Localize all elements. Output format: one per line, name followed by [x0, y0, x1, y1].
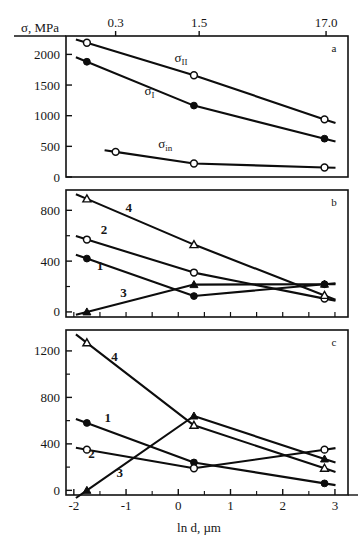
figure-canvas: 0.31.517.0050010001500200004008000400800…	[0, 0, 363, 559]
data-point-b-1	[83, 255, 90, 262]
y-axis-title: σ, MPa	[21, 20, 59, 35]
curve-label-c-2: 2	[88, 446, 95, 461]
data-point-c-3	[190, 412, 198, 419]
x-tick-label: 0	[175, 498, 182, 513]
data-point-b-4	[321, 291, 329, 298]
data-point-b-1	[191, 293, 198, 300]
y-tick-label-a: 0	[54, 170, 61, 185]
top-axis-label: 17.0	[315, 15, 338, 30]
x-tick-label: 3	[332, 498, 339, 513]
x-axis-title: ln d, µm	[177, 520, 221, 535]
curve-label-c-4: 4	[111, 349, 118, 364]
series-label-a-2: σin	[158, 136, 173, 153]
data-point-b-4	[190, 241, 198, 248]
data-point-a-σin	[112, 148, 119, 155]
series-line-a-σII	[76, 39, 336, 123]
y-tick-label-a: 1500	[34, 78, 60, 93]
y-tick-label-b: 400	[41, 254, 61, 269]
data-point-b-2	[191, 269, 198, 276]
data-point-c-2	[191, 465, 198, 472]
top-axis-label: 1.5	[191, 15, 207, 30]
x-tick-label: -1	[121, 498, 132, 513]
y-tick-label-a: 500	[41, 139, 61, 154]
series-line-b-3	[76, 284, 336, 315]
x-tick-label: -2	[68, 498, 79, 513]
data-point-a-σII	[83, 39, 90, 46]
data-point-c-4	[321, 464, 329, 471]
y-tick-label-c: 400	[41, 436, 61, 451]
series-line-a-σin	[105, 150, 336, 168]
curve-label-b-2: 2	[101, 222, 108, 237]
panel-frame-a	[66, 36, 348, 177]
y-tick-label-a: 1000	[34, 108, 60, 123]
data-point-a-σII	[321, 116, 328, 123]
data-point-a-σI	[321, 135, 328, 142]
x-tick-label: 2	[279, 498, 286, 513]
y-tick-label-a: 2000	[34, 47, 60, 62]
top-axis-label: 0.3	[107, 15, 123, 30]
data-point-a-σin	[191, 160, 198, 167]
x-tick-label: 1	[227, 498, 234, 513]
curve-label-b-3: 3	[120, 285, 127, 300]
panel-letter-c: c	[332, 336, 337, 348]
data-point-c-2	[321, 446, 328, 453]
series-label-a-1: σI	[145, 83, 155, 100]
data-point-c-1	[83, 420, 90, 427]
curve-label-c-3: 3	[117, 465, 124, 480]
y-tick-label-b: 0	[54, 304, 61, 319]
y-tick-label-c: 0	[54, 483, 61, 498]
panel-letter-b: b	[331, 196, 337, 208]
data-point-a-σin	[321, 164, 328, 171]
data-point-a-σI	[191, 102, 198, 109]
data-point-c-1	[321, 480, 328, 487]
y-tick-label-c: 1200	[34, 343, 60, 358]
panel-letter-a: a	[332, 42, 337, 54]
data-point-a-σII	[191, 72, 198, 79]
curve-label-c-1: 1	[105, 410, 112, 425]
series-line-a-σI	[76, 57, 336, 141]
curve-label-b-1: 1	[97, 258, 104, 273]
y-tick-label-b: 800	[41, 203, 61, 218]
data-point-b-2	[83, 236, 90, 243]
data-point-a-σI	[83, 58, 90, 65]
series-label-a-0: σII	[174, 50, 187, 67]
data-point-b-4	[83, 195, 91, 202]
y-tick-label-c: 800	[41, 390, 61, 405]
curve-label-b-4: 4	[125, 200, 132, 215]
